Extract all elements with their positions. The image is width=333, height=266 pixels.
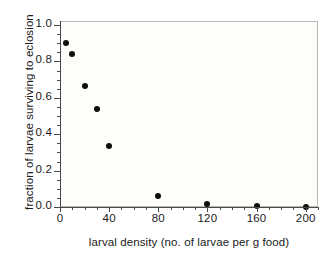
x-axis-line [60,207,318,208]
y-axis-major-tick [54,134,60,135]
y-axis-line [60,21,61,207]
y-axis-minor-tick [57,116,60,117]
x-axis-minor-tick [97,207,98,210]
x-axis-minor-tick [244,207,245,210]
data-point [106,143,112,149]
figure: 04080120160200 0.00.20.40.60.81.0 larval… [0,0,333,266]
x-axis-minor-tick [293,207,294,210]
y-axis-minor-tick [57,107,60,108]
y-axis-title: fraction of larvae surviving to eclosion [23,7,35,217]
y-axis-major-tick [54,98,60,99]
y-axis-minor-tick [57,80,60,81]
y-axis-minor-tick [57,162,60,163]
x-axis-minor-tick [171,207,172,210]
y-axis-minor-tick [57,43,60,44]
x-axis-tick-label: 80 [138,212,178,224]
data-point [94,106,100,112]
y-axis-minor-tick [57,189,60,190]
x-axis-minor-tick [146,207,147,210]
y-axis-major-tick [54,61,60,62]
x-axis-minor-tick [220,207,221,210]
y-axis-minor-tick [57,180,60,181]
x-axis-minor-tick [281,207,282,210]
y-axis-minor-tick [57,125,60,126]
x-axis-tick-label: 160 [237,212,277,224]
x-axis-minor-tick [232,207,233,210]
y-axis-minor-tick [57,152,60,153]
data-point [63,40,69,46]
y-axis-minor-tick [57,89,60,90]
x-axis-minor-tick [72,207,73,210]
x-axis-tick-label: 120 [187,212,227,224]
y-axis-major-tick [54,25,60,26]
x-axis-tick-label: 200 [286,212,326,224]
data-point [82,83,88,89]
x-axis-minor-tick [183,207,184,210]
data-point [69,51,75,57]
x-axis-minor-tick [195,207,196,210]
data-point [155,193,161,199]
y-axis-major-tick [54,207,60,208]
x-axis-title: larval density (no. of larvae per g food… [60,236,318,248]
figure-caption [8,258,328,266]
plot-area [60,25,318,207]
y-axis-minor-tick [57,52,60,53]
x-axis-tick-label: 0 [40,212,80,224]
x-axis-minor-tick [121,207,122,210]
x-axis-minor-tick [134,207,135,210]
y-axis-minor-tick [57,198,60,199]
x-axis-minor-tick [269,207,270,210]
y-axis-major-tick [54,171,60,172]
x-axis-minor-tick [85,207,86,210]
y-axis-minor-tick [57,143,60,144]
x-axis-minor-tick [318,207,319,210]
x-axis-tick-label: 40 [89,212,129,224]
y-axis-minor-tick [57,34,60,35]
y-axis-minor-tick [57,71,60,72]
